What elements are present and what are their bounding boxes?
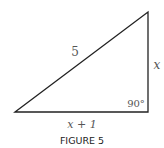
- vertical-side-label: x: [154, 58, 161, 72]
- horizontal-side-label: x + 1: [67, 118, 96, 131]
- triangle-shape: [15, 12, 148, 112]
- right-triangle-figure: 5 x 90° x + 1 FIGURE 5: [0, 0, 164, 148]
- hypotenuse-label: 5: [71, 45, 79, 59]
- figure-caption: FIGURE 5: [60, 135, 104, 146]
- right-angle-label: 90°: [127, 98, 145, 109]
